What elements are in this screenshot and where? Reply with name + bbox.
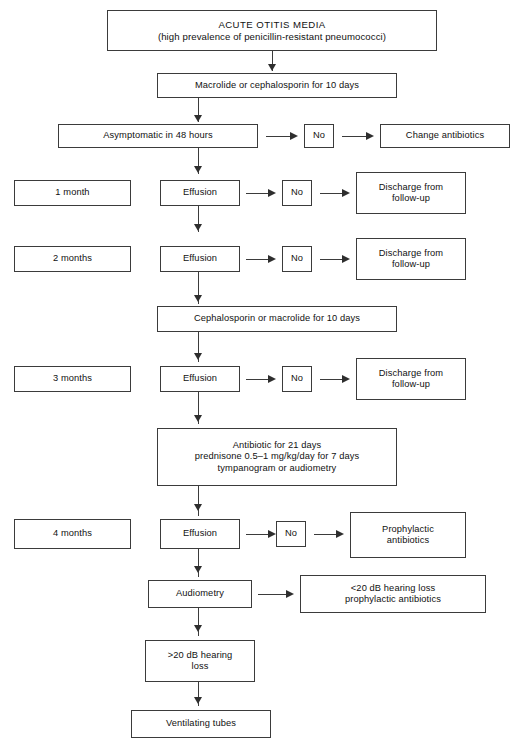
- arrowhead-no2-to-discharge1: [342, 189, 350, 197]
- node-no-4: No: [282, 366, 312, 392]
- node-ventilating-tubes: Ventilating tubes: [131, 710, 271, 738]
- arrowhead-antibiotic21-to-effusion4: [194, 504, 202, 511]
- node-month-3-label: 3 months: [53, 373, 92, 384]
- node-no-5-label: No: [285, 528, 297, 539]
- arrowhead-cephalosporin-to-effusion3: [194, 353, 202, 360]
- node-discharge-2-label: Discharge from follow-up: [379, 248, 443, 271]
- node-effusion-4-label: Effusion: [183, 528, 217, 539]
- node-macrolide-or-cephalosporin-label: Macrolide or cephalosporin for 10 days: [195, 80, 359, 91]
- node-no-1: No: [304, 124, 334, 148]
- node-month-1: 1 month: [14, 180, 131, 206]
- arrowhead-hearing-loss-to-ventilating-tubes: [194, 697, 202, 704]
- connector-no2-to-discharge1: [320, 193, 344, 194]
- node-audiometry: Audiometry: [148, 580, 252, 608]
- arrowhead-audiometry-to-hearing-loss-under-20: [286, 590, 294, 598]
- arrowhead-title-to-macrolide: [268, 64, 276, 71]
- node-asymptomatic-48-hours-label: Asymptomatic in 48 hours: [103, 130, 212, 141]
- node-change-antibiotics: Change antibiotics: [380, 124, 510, 148]
- node-effusion-2: Effusion: [160, 246, 240, 272]
- connector-effusion1-to-no2: [246, 193, 270, 194]
- node-effusion-1: Effusion: [160, 180, 240, 206]
- arrowhead-effusion4-to-audiometry: [194, 566, 202, 573]
- node-month-2-label: 2 months: [53, 253, 92, 264]
- node-no-1-label: No: [313, 130, 325, 141]
- node-effusion-3: Effusion: [160, 366, 240, 392]
- connector-no1-to-change-antibiotics: [342, 136, 368, 137]
- connector-antibiotic21-to-effusion4: [198, 486, 199, 516]
- node-discharge-1-label: Discharge from follow-up: [379, 182, 443, 205]
- node-effusion-2-label: Effusion: [183, 253, 217, 264]
- arrowhead-asymptomatic-to-effusion1: [194, 166, 202, 173]
- arrowhead-effusion1-to-no2: [268, 189, 276, 197]
- node-change-antibiotics-label: Change antibiotics: [406, 130, 484, 141]
- connector-effusion4-to-no5: [246, 534, 270, 535]
- arrowhead-asymptomatic-to-no: [290, 132, 298, 140]
- node-no-2-label: No: [291, 187, 303, 198]
- node-month-4-label: 4 months: [53, 528, 92, 539]
- arrowhead-effusion1-to-effusion2: [194, 224, 202, 231]
- node-macrolide-or-cephalosporin: Macrolide or cephalosporin for 10 days: [157, 73, 397, 98]
- node-effusion-4: Effusion: [160, 519, 240, 549]
- node-prophylactic-antibiotics-label: Prophylactic antibiotics: [382, 524, 434, 547]
- node-discharge-1: Discharge from follow-up: [356, 172, 466, 214]
- node-prophylactic-antibiotics: Prophylactic antibiotics: [350, 512, 466, 558]
- arrowhead-effusion2-to-cephalosporin: [194, 295, 202, 302]
- node-asymptomatic-48-hours: Asymptomatic in 48 hours: [58, 124, 258, 148]
- node-no-3-label: No: [291, 253, 303, 264]
- arrowhead-effusion3-to-antibiotic21: [194, 415, 202, 422]
- node-audiometry-label: Audiometry: [176, 588, 224, 599]
- node-no-2: No: [282, 180, 312, 206]
- node-acute-otitis-media-line1: ACUTE OTITIS MEDIA: [218, 19, 325, 31]
- arrowhead-effusion3-to-no4: [268, 375, 276, 383]
- connector-no4-to-discharge3: [320, 379, 344, 380]
- node-hearing-loss-under-20: <20 dB hearing loss prophylactic antibio…: [300, 575, 486, 613]
- connector-no5-to-prophylactic: [314, 534, 338, 535]
- node-ventilating-tubes-label: Ventilating tubes: [166, 718, 236, 729]
- node-antibiotic-21-days-label: Antibiotic for 21 days prednisone 0.5–1 …: [195, 440, 359, 474]
- node-month-2: 2 months: [14, 246, 131, 272]
- node-cephalosporin-or-macrolide-label: Cephalosporin or macrolide for 10 days: [194, 313, 360, 324]
- arrowhead-no5-to-prophylactic: [336, 530, 344, 538]
- connector-asymptomatic-to-no: [266, 136, 292, 137]
- arrowhead-no4-to-discharge3: [342, 375, 350, 383]
- node-effusion-1-label: Effusion: [183, 187, 217, 198]
- node-hearing-loss-over-20: >20 dB hearing loss: [145, 640, 255, 682]
- node-effusion-3-label: Effusion: [183, 373, 217, 384]
- arrowhead-no3-to-discharge2: [342, 255, 350, 263]
- arrowhead-effusion4-to-no5: [268, 530, 276, 538]
- arrowhead-effusion2-to-no3: [268, 255, 276, 263]
- node-discharge-3-label: Discharge from follow-up: [379, 368, 443, 391]
- node-no-5: No: [276, 521, 306, 547]
- node-month-1-label: 1 month: [55, 187, 89, 198]
- node-no-3: No: [282, 246, 312, 272]
- arrowhead-audiometry-to-hearing-loss-over-20: [194, 625, 202, 632]
- node-antibiotic-21-days: Antibiotic for 21 days prednisone 0.5–1 …: [157, 428, 397, 486]
- node-hearing-loss-over-20-label: >20 dB hearing loss: [168, 650, 233, 673]
- node-cephalosporin-or-macrolide: Cephalosporin or macrolide for 10 days: [157, 306, 397, 332]
- node-no-4-label: No: [291, 373, 303, 384]
- node-month-3: 3 months: [14, 366, 131, 392]
- node-discharge-2: Discharge from follow-up: [356, 238, 466, 280]
- node-discharge-3: Discharge from follow-up: [356, 358, 466, 400]
- arrowhead-no1-to-change-antibiotics: [366, 132, 374, 140]
- node-acute-otitis-media: ACUTE OTITIS MEDIA (high prevalence of p…: [107, 10, 437, 51]
- connector-no3-to-discharge2: [320, 259, 344, 260]
- node-hearing-loss-under-20-label: <20 dB hearing loss prophylactic antibio…: [345, 583, 441, 606]
- flowchart-canvas: ACUTE OTITIS MEDIA (high prevalence of p…: [0, 0, 523, 749]
- connector-effusion3-to-no4: [246, 379, 270, 380]
- node-month-4: 4 months: [14, 519, 131, 549]
- connector-effusion2-to-no3: [246, 259, 270, 260]
- connector-audiometry-to-hearing-loss-under-20: [258, 594, 288, 595]
- node-acute-otitis-media-line2: (high prevalence of penicillin-resistant…: [158, 31, 386, 43]
- arrowhead-macrolide-to-asymptomatic: [194, 115, 202, 122]
